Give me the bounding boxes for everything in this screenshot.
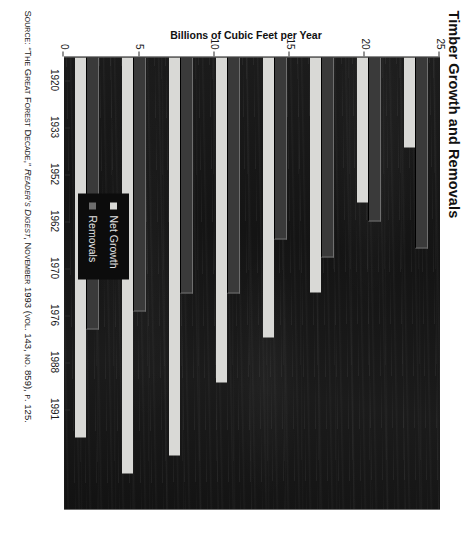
category-axis: 19201933195219621970197619881991 xyxy=(42,56,64,508)
scanned-page: Timber Growth and Removals 0510152025 Bi… xyxy=(0,0,470,549)
legend-item-removals: Removals xyxy=(87,202,99,268)
source-article: “The Great Forest Decade,” xyxy=(23,47,34,166)
bar-group xyxy=(158,57,205,509)
rotated-chart-stage: Timber Growth and Removals 0510152025 Bi… xyxy=(0,0,470,549)
category-tick-mark xyxy=(65,362,70,363)
bar-removals xyxy=(180,57,193,293)
category-tick-mark xyxy=(65,80,70,81)
bar-group xyxy=(393,57,440,509)
category-tick-label: 1952 xyxy=(49,162,60,184)
bar-group xyxy=(346,57,393,509)
category-tick-mark xyxy=(65,127,70,128)
value-tick: 25 xyxy=(435,0,446,56)
bars-layer xyxy=(64,57,440,509)
bar-group xyxy=(111,57,158,509)
category-tick-mark xyxy=(65,268,70,269)
bar-removals xyxy=(368,57,381,221)
bar-net-growth xyxy=(404,57,415,147)
bar-removals xyxy=(274,57,287,239)
category-tick-label: 1976 xyxy=(49,303,60,325)
legend: Net Growth Removals xyxy=(78,193,129,279)
value-axis-label: Billions of Cubic Feet per Year xyxy=(126,28,366,40)
dark-square-icon xyxy=(90,202,97,209)
category-tick-label: 1920 xyxy=(49,68,60,90)
bar-group xyxy=(299,57,346,509)
legend-label-removals: Removals xyxy=(87,215,99,262)
source-prefix: Source: xyxy=(23,10,34,44)
plot-area: Net Growth Removals xyxy=(64,56,440,509)
bar-group xyxy=(252,57,299,509)
category-tick-label: 1962 xyxy=(49,209,60,231)
bar-removals xyxy=(227,57,240,293)
category-tick-label: 1970 xyxy=(49,256,60,278)
category-tick-label: 1991 xyxy=(49,397,60,419)
bar-net-growth xyxy=(216,57,227,382)
source-issue: , November 1993 (vol. 143, no. 859), p. … xyxy=(23,237,34,423)
bar-removals xyxy=(415,57,428,248)
bar-removals xyxy=(133,57,146,311)
category-tick-mark xyxy=(65,409,70,410)
bar-group xyxy=(205,57,252,509)
bar-net-growth xyxy=(263,57,274,337)
source-citation: Source: “The Great Forest Decade,” Reade… xyxy=(23,10,34,422)
bar-removals xyxy=(321,57,334,257)
legend-item-net-growth: Net Growth xyxy=(108,202,120,268)
bar-group xyxy=(64,57,111,509)
value-tick: 0 xyxy=(59,0,70,56)
category-tick-mark xyxy=(65,174,70,175)
source-publication: Reader’s Digest xyxy=(23,168,34,236)
chart-title: Timber Growth and Removals xyxy=(446,10,462,218)
light-square-icon xyxy=(111,202,118,209)
category-tick-label: 1988 xyxy=(49,350,60,372)
category-tick-mark xyxy=(65,315,70,316)
category-tick-mark xyxy=(65,221,70,222)
chart-root: Timber Growth and Removals 0510152025 Bi… xyxy=(0,0,470,549)
legend-label-net-growth: Net Growth xyxy=(108,215,120,268)
category-tick-label: 1933 xyxy=(49,115,60,137)
bar-net-growth xyxy=(310,57,321,292)
bar-net-growth xyxy=(357,57,368,202)
bar-net-growth xyxy=(169,57,180,455)
